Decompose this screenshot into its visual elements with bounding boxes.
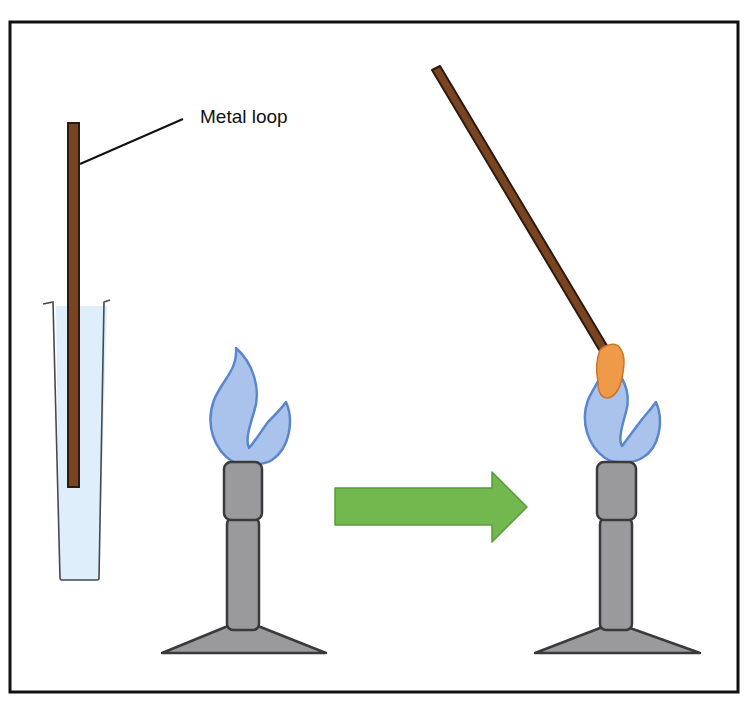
metal-loop-label: Metal loop — [200, 106, 288, 127]
metal-loop-in-tube — [68, 123, 79, 487]
flame-test-diagram: Metal loop — [0, 0, 750, 707]
